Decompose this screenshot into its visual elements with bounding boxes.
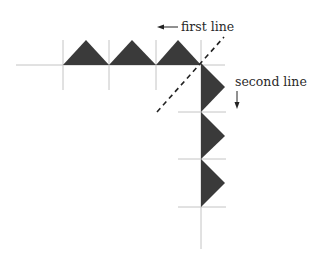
diagram-canvas: first line second line	[0, 0, 314, 269]
first-line-triangle-1	[63, 40, 109, 65]
second-line-label: second line	[235, 74, 307, 89]
first-line-triangle-2	[109, 40, 156, 65]
first-line-arrow-head-icon	[157, 25, 164, 30]
second-line-triangle-2	[201, 112, 225, 159]
second-line-arrow-head-icon	[235, 102, 240, 109]
first-line-triangles	[63, 40, 201, 65]
second-line-triangles	[201, 63, 225, 207]
second-line-triangle-3	[201, 159, 225, 207]
fold-line-dashed	[157, 37, 224, 112]
second-line-arrow	[235, 91, 240, 109]
first-line-label: first line	[181, 19, 234, 34]
first-line-triangle-3	[156, 40, 201, 65]
first-line-arrow	[157, 25, 178, 30]
second-line-triangle-1	[201, 63, 225, 112]
